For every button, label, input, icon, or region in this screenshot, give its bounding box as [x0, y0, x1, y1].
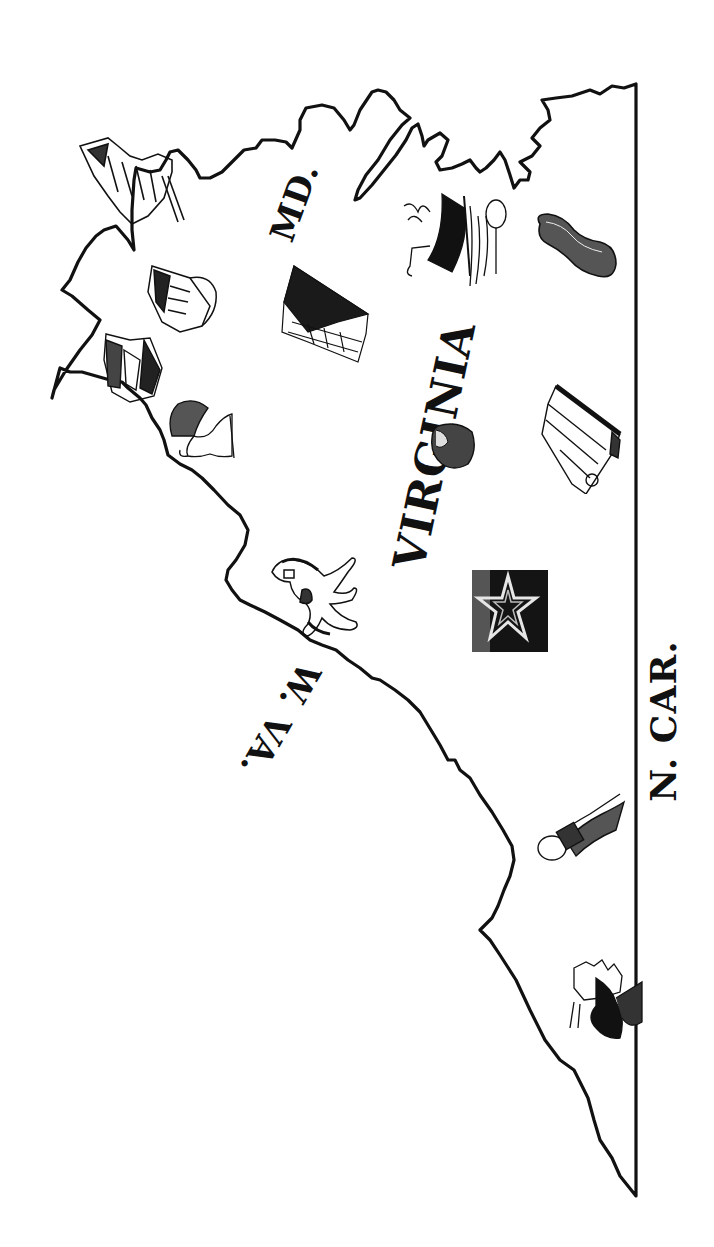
barn-icon	[100, 330, 168, 406]
star-block-icon	[470, 568, 550, 654]
turkey-icon	[164, 396, 236, 466]
ship-icon	[400, 176, 520, 296]
mining-equipment-icon	[532, 784, 628, 864]
state-label-north-carolina: N. CAR.	[642, 640, 684, 802]
ham-icon	[428, 420, 478, 472]
tobacco-field-icon	[278, 262, 374, 370]
colonial-buildings-icon	[78, 136, 204, 246]
natural-bridge-icon	[566, 958, 646, 1042]
peanut-icon	[532, 210, 622, 282]
industrial-machine-icon	[536, 384, 622, 494]
horse-icon	[268, 552, 372, 638]
